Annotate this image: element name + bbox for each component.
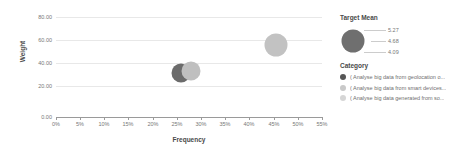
y-axis-tick-labels: 80.00 60.00 40.00 20.00 0.00 [20, 0, 54, 153]
x-tick [104, 117, 105, 120]
category-swatch-icon [340, 85, 346, 91]
size-legend-leader [364, 30, 386, 31]
category-legend-label: ( Analyse big data from smart devices... [350, 85, 446, 91]
x-tick [153, 117, 154, 120]
size-legend-leader [371, 41, 386, 42]
category-legend-label: ( Analyse big data from geolocation o... [350, 74, 445, 80]
x-tick-label: 5% [76, 121, 84, 127]
x-tick [298, 117, 299, 120]
x-tick-label: 0% [52, 121, 60, 127]
x-tick-label: 35% [219, 121, 230, 127]
category-legend-item[interactable]: ( Analyse big data from smart devices... [340, 83, 460, 93]
bubble-chart-widget: Weight 80.00 60.00 40.00 20.00 0.00 [0, 0, 461, 153]
x-tick [274, 117, 275, 120]
x-tick [201, 117, 202, 120]
size-legend-title: Target Mean [340, 14, 458, 21]
x-tick [56, 117, 57, 120]
x-tick [322, 117, 323, 120]
size-legend-value: 4.09 [388, 49, 399, 55]
plot-area: Weight 80.00 60.00 40.00 20.00 0.00 [0, 0, 330, 153]
x-tick-label: 20% [147, 121, 158, 127]
x-tick-label: 45% [268, 121, 279, 127]
category-swatch-icon [340, 95, 346, 101]
gridline [56, 86, 322, 87]
category-legend-title: Category [340, 62, 460, 69]
size-legend: Target Mean 5.27 4.68 4.09 [340, 14, 458, 60]
data-point-bubble[interactable] [182, 62, 201, 81]
category-legend: Category ( Analyse big data from geoloca… [340, 62, 460, 104]
x-tick-label: 15% [122, 121, 133, 127]
x-tick-label: 50% [292, 121, 303, 127]
x-axis-line [56, 117, 322, 118]
y-tick-label: 40.00 [38, 60, 52, 66]
x-tick-label: 25% [171, 121, 182, 127]
size-legend-value: 5.27 [388, 27, 399, 33]
size-legend-leader [364, 52, 386, 53]
x-tick [249, 117, 250, 120]
x-tick-label: 40% [243, 121, 254, 127]
x-tick [128, 117, 129, 120]
category-legend-item[interactable]: ( Analyse big data from geolocation o... [340, 72, 460, 82]
size-legend-value: 4.68 [388, 38, 399, 44]
x-tick [177, 117, 178, 120]
grid-and-data: 0% 5% 10% 15% 20% 25% 30% 35% 40% 45% 50… [56, 0, 322, 153]
category-swatch-icon [340, 74, 346, 80]
x-tick [80, 117, 81, 120]
data-point-bubble[interactable] [265, 34, 288, 57]
size-legend-body: 5.27 4.68 4.09 [340, 24, 458, 60]
y-tick-label: 20.00 [38, 83, 52, 89]
x-tick [225, 117, 226, 120]
y-tick-label: 80.00 [38, 14, 52, 20]
y-tick-label: 0.00 [41, 114, 52, 120]
x-tick-label: 10% [98, 121, 109, 127]
y-tick-label: 60.00 [38, 37, 52, 43]
x-tick-label: 30% [195, 121, 206, 127]
x-tick-label: 55% [316, 121, 327, 127]
gridline [56, 17, 322, 18]
x-axis-title: Frequency [56, 136, 322, 143]
size-legend-marker [342, 30, 365, 53]
category-legend-item[interactable]: ( Analyse big data generated from so... [340, 93, 460, 103]
category-legend-label: ( Analyse big data generated from so... [350, 95, 444, 101]
